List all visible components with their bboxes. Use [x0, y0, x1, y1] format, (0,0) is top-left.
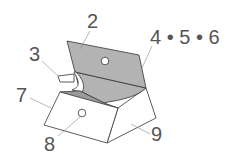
label-part-8: 8	[44, 134, 55, 154]
label-parts-4-5-6: 4 • 5 • 6	[150, 27, 220, 47]
label-part-7: 7	[16, 85, 27, 105]
box-diagram	[0, 0, 244, 165]
front-hole-icon	[78, 109, 86, 117]
label-part-3: 3	[29, 44, 40, 64]
leader-3	[42, 61, 59, 77]
leader-7	[30, 98, 51, 108]
leader-4-5-6	[142, 46, 152, 68]
tab-part-3	[58, 74, 74, 82]
label-part-2: 2	[87, 11, 98, 31]
flap-hole-icon	[101, 57, 109, 65]
label-part-9: 9	[151, 124, 162, 144]
